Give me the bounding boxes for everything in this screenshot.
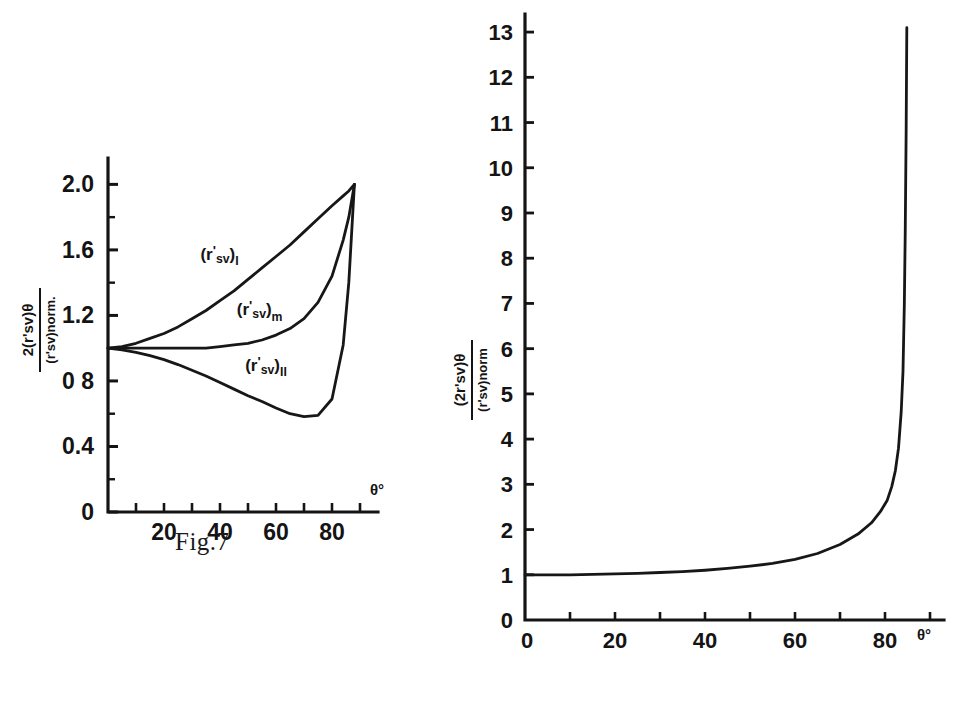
figure-7-curve-label-3: (r'sv)II xyxy=(245,354,287,379)
figure-7-axes xyxy=(108,158,378,512)
figure-8-x-axis-label: θ° xyxy=(917,626,931,643)
figure-7: 00.40 81.21.62.020406080 (r'sv)I(r'sv)m(… xyxy=(0,0,430,600)
figure-8-y-tick-label: 1 xyxy=(501,563,513,588)
figure-8-curves xyxy=(525,28,907,575)
figure-8-y-tick-label: 4 xyxy=(501,427,514,452)
figure-7-x-tick-label: 20 xyxy=(151,519,177,545)
figure-7-x-tick-label: 60 xyxy=(263,519,289,545)
figure-8-x-tick-label: 40 xyxy=(693,628,717,653)
figure-8-ticks xyxy=(525,32,930,620)
figure-7-y-denominator: (r'sv)norm. xyxy=(43,296,58,363)
figure-8-y-tick-label: 5 xyxy=(501,382,513,407)
figure-8-axes xyxy=(525,14,944,620)
figure-7-y-numerator: 2(r'sv)θ xyxy=(19,304,36,357)
figure-7-curve-1 xyxy=(108,184,354,348)
figure-8-plot: 012345678910111213020406080 (2r'sv)θ (r'… xyxy=(430,0,954,705)
figure-7-y-tick-label: 1.6 xyxy=(62,237,94,263)
figure-8-y-tick-label: 7 xyxy=(501,291,513,316)
figure-8-y-tick-label: 10 xyxy=(489,156,513,181)
figure-7-curves xyxy=(108,184,354,416)
figure-8-y-tick-label: 11 xyxy=(490,111,513,136)
figure-8-y-tick-label: 13 xyxy=(489,20,513,45)
figure-8-y-tick-label: 3 xyxy=(501,472,513,497)
figure-8-curve xyxy=(525,28,907,575)
figure-7-y-tick-label: 2.0 xyxy=(62,171,94,197)
figure-8-y-tick-label: 0 xyxy=(501,608,513,633)
figure-8-y-numerator: (2r'sv)θ xyxy=(451,354,468,407)
figure-8-tick-labels: 012345678910111213020406080 xyxy=(489,20,898,653)
figure-7-y-tick-label: 0 xyxy=(81,499,94,525)
figure-7-x-tick-label: 80 xyxy=(319,519,345,545)
figure-8-y-tick-label: 8 xyxy=(501,246,513,271)
figure-8-y-tick-label: 9 xyxy=(501,201,513,226)
figure-7-y-tick-label: 1.2 xyxy=(62,302,94,328)
figure-7-y-axis-label: 2(r'sv)θ (r'sv)norm. xyxy=(19,288,58,372)
figure-8-x-tick-label: 20 xyxy=(603,628,627,653)
figure-7-curve-labels: (r'sv)I(r'sv)m(r'sv)II xyxy=(200,243,286,380)
figure-8-x-tick-label: 80 xyxy=(873,628,897,653)
figure-7-curve-label-2: (r'sv)m xyxy=(237,298,283,323)
figure-7-plot: 00.40 81.21.62.020406080 (r'sv)I(r'sv)m(… xyxy=(0,0,430,600)
figure-7-y-tick-label: 0 8 xyxy=(62,368,94,394)
figure-7-y-tick-label: 0.4 xyxy=(62,433,94,459)
figure-7-curve-2 xyxy=(108,184,354,348)
figure-8-y-tick-label: 6 xyxy=(501,337,513,362)
figure-8-x-tick-label: 60 xyxy=(783,628,807,653)
figure-7-x-axis-label: θ° xyxy=(370,481,384,498)
figure-8-y-axis-label: (2r'sv)θ (r'sv)norm xyxy=(451,340,490,420)
figure-7-caption: Fig.7 xyxy=(175,528,230,556)
figure-8-y-tick-label: 12 xyxy=(489,65,513,90)
figure-7-tick-labels: 00.40 81.21.62.020406080 xyxy=(62,171,345,545)
figure-7-curve-label-1: (r'sv)I xyxy=(200,243,238,268)
figure-8-x-tick-label: 0 xyxy=(521,628,533,653)
figure-8-y-denominator: (r'sv)norm xyxy=(475,348,490,412)
figure-8: 012345678910111213020406080 (2r'sv)θ (r'… xyxy=(430,0,954,705)
figure-8-y-tick-label: 2 xyxy=(501,518,513,543)
figure-page: 00.40 81.21.62.020406080 (r'sv)I(r'sv)m(… xyxy=(0,0,954,705)
